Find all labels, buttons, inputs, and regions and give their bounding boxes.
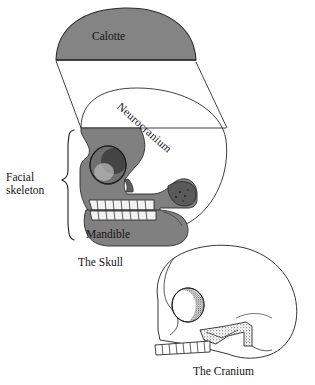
cranium-caption: The Cranium: [193, 365, 254, 378]
calotte-part: [56, 8, 196, 60]
skull-diagram-figure: Calotte Neurocranium Facial skeleton Man…: [0, 0, 315, 385]
cranium-panel: [155, 245, 297, 358]
skull-caption: The Skull: [78, 256, 123, 269]
maxillary-teeth-row: [89, 200, 154, 210]
facial-skeleton-label-line1: Facial: [6, 171, 44, 184]
facial-skeleton-brace: [62, 130, 74, 240]
calotte-label: Calotte: [92, 30, 125, 43]
mandibular-teeth-row: [90, 211, 156, 220]
mandible-label: Mandible: [86, 228, 130, 241]
facial-skeleton-label-line2: skeleton: [6, 184, 44, 197]
facial-skeleton-label: Facial skeleton: [6, 171, 44, 197]
cranium-maxillary-teeth: [155, 341, 210, 355]
diagram-canvas: [0, 0, 315, 385]
